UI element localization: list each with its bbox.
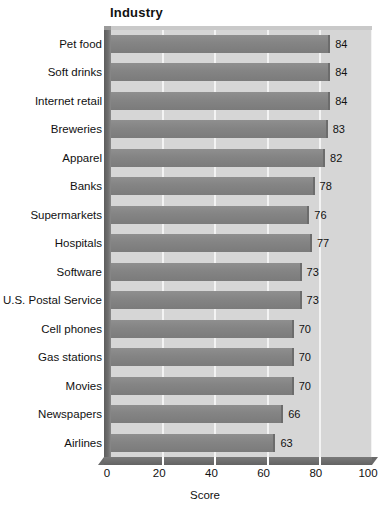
category-label: Soft drinks [0,67,102,79]
category-label: U.S. Postal Service [0,295,102,307]
bar-value-label: 84 [335,96,347,107]
bar-row [111,87,372,115]
bar [111,320,294,338]
bar-end-cap [326,120,328,138]
x-tick-label: 80 [309,468,322,480]
bar-row [111,343,372,371]
bar-end-cap [328,92,330,110]
x-tick-mark [214,457,216,465]
bar-end-cap [323,149,325,167]
bar-value-label: 73 [307,295,319,306]
bar [111,263,302,281]
bar [111,405,283,423]
x-tick-mark [319,457,321,465]
bar-value-label: 78 [320,181,332,192]
category-label: Banks [0,181,102,193]
category-label: Gas stations [0,352,102,364]
bar-row [111,315,372,343]
bar [111,434,275,452]
bar-end-cap [300,291,302,309]
category-label: Apparel [0,153,102,165]
bar-row [111,286,372,314]
bar-end-cap [313,177,315,195]
x-axis-base [104,457,372,465]
x-axis-title-text: Score [190,489,220,501]
bar-row [111,58,372,86]
bar-end-cap [292,320,294,338]
bar-end-cap [292,377,294,395]
category-label: Software [0,267,102,279]
bar [111,35,330,53]
bar [111,149,325,167]
bar [111,206,309,224]
x-tick-label: 100 [358,468,377,480]
bar-value-label: 70 [299,324,311,335]
bar-value-label: 66 [288,409,300,420]
bar-row [111,229,372,257]
y-axis-wall [104,30,111,457]
category-label: Internet retail [0,96,102,108]
bar [111,177,315,195]
bar-value-label: 76 [314,210,326,221]
category-label: Airlines [0,438,102,450]
x-tick-label: 20 [153,468,166,480]
bar [111,120,328,138]
bar-end-cap [328,63,330,81]
bar-row [111,30,372,58]
x-tick-label: 0 [104,468,110,480]
bar-end-cap [300,263,302,281]
bar-row [111,400,372,428]
bar-row [111,258,372,286]
x-tick-mark [162,457,164,465]
bar-value-label: 73 [307,267,319,278]
plot-area [111,30,372,457]
bar-value-label: 83 [333,124,345,135]
bar-value-label: 63 [280,438,292,449]
bar [111,92,330,110]
category-label: Hospitals [0,238,102,250]
bar-end-cap [307,206,309,224]
x-tick-mark [267,457,269,465]
x-tick-label: 60 [257,468,270,480]
category-label: Pet food [0,39,102,51]
bar-value-label: 77 [317,238,329,249]
bar-row [111,372,372,400]
category-label: Newspapers [0,409,102,421]
bar-end-cap [273,434,275,452]
bar-value-label: 84 [335,39,347,50]
bar-end-cap [310,234,312,252]
bar-end-cap [328,35,330,53]
category-label: Breweries [0,124,102,136]
category-label: Supermarkets [0,210,102,222]
bar-value-label: 70 [299,381,311,392]
x-tick-label: 40 [205,468,218,480]
bar [111,63,330,81]
bar-value-label: 70 [299,352,311,363]
bar [111,377,294,395]
bar-value-label: 82 [330,153,342,164]
bar-end-cap [292,348,294,366]
category-label: Cell phones [0,324,102,336]
bar [111,234,312,252]
bar [111,291,302,309]
bar-row [111,172,372,200]
bar-chart: Industry 84Pet food84Soft drinks84Intern… [0,0,380,515]
bar [111,348,294,366]
bar-row [111,429,372,457]
x-axis-title: Score [0,489,380,501]
base-right-bevel [372,457,378,465]
chart-title: Industry [110,5,163,20]
bar-value-label: 84 [335,67,347,78]
bar-row [111,201,372,229]
bar-end-cap [281,405,283,423]
category-label: Movies [0,381,102,393]
